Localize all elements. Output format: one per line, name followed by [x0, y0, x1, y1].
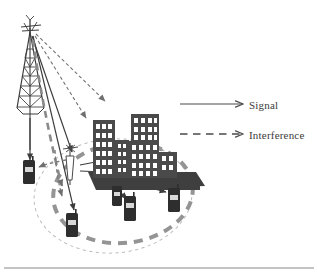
legend-label-signal: Signal [249, 99, 278, 111]
mobile-handset-lower-left [66, 209, 78, 237]
mobile-handset-right [168, 184, 180, 212]
figure-canvas: Signal Interference [0, 0, 318, 275]
building-cluster [88, 114, 205, 190]
mobile-handset-center [124, 192, 136, 221]
legend-label-interference: Interference [249, 129, 305, 141]
mobile-handset-building-base [112, 186, 122, 206]
small-cell-antenna [63, 143, 78, 185]
mobile-handset-left [23, 156, 35, 184]
